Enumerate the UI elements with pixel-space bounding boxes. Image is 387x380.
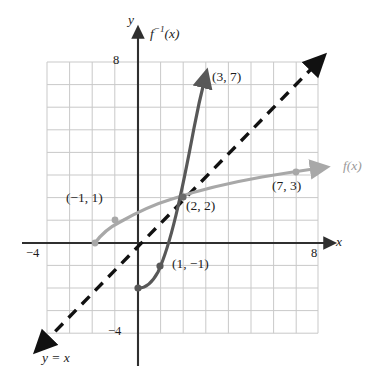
point-marker-7-3 [293, 169, 300, 176]
point-marker-neg1-1 [112, 217, 119, 224]
x-tick-label-8: 8 [311, 246, 317, 261]
point-label-3-7: (3, 7) [212, 69, 241, 85]
point-label-neg1-1: (−1, 1) [66, 190, 103, 206]
x-tick-label-neg4: −4 [26, 246, 39, 261]
y-axis-label: y [128, 12, 134, 28]
f-inverse-label-arg: (x) [165, 26, 180, 41]
point-marker-3-7 [201, 76, 208, 83]
point-marker-1-neg1 [156, 262, 163, 269]
f-inverse-label-exponent: −1 [154, 24, 165, 34]
function-inverse-graph [0, 0, 387, 380]
y-tick-label-neg4: −4 [108, 324, 121, 339]
f-inverse-label: f−1(x) [150, 24, 180, 42]
y-tick-label-8: 8 [113, 53, 119, 68]
point-label-7-3: (7, 3) [272, 178, 301, 194]
point-marker-f-x-intercept [92, 240, 99, 247]
point-label-2-2: (2, 2) [186, 198, 215, 214]
x-axis-label: x [336, 234, 342, 250]
f-label: f(x) [343, 158, 362, 174]
point-label-1-neg1: (1, −1) [172, 256, 209, 272]
point-marker-f-inverse-y-intercept [134, 284, 141, 291]
identity-line-label: y = x [42, 350, 70, 366]
